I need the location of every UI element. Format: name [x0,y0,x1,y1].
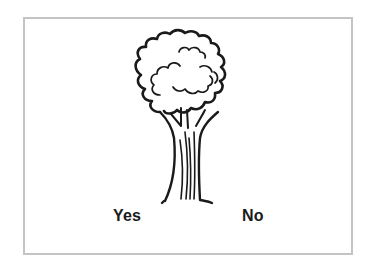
yes-option[interactable]: Yes [113,207,141,225]
tree-icon [0,0,375,266]
no-option[interactable]: No [242,207,264,225]
